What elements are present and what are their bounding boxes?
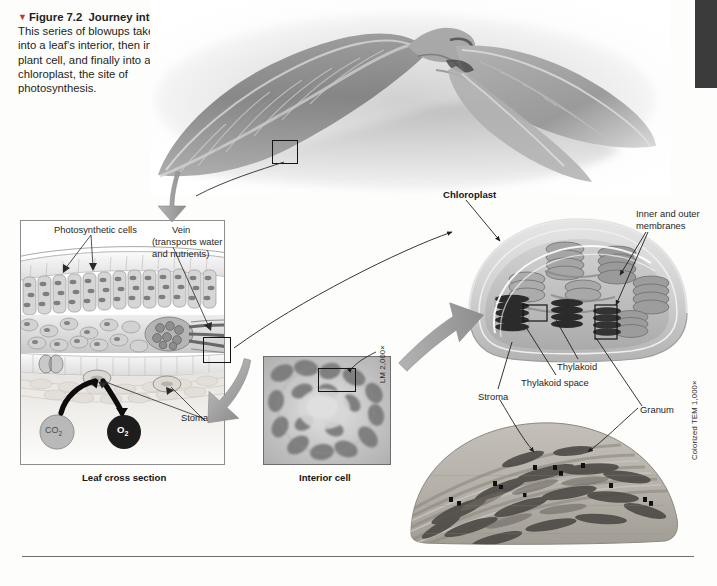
- panel-title-interior-cell: Interior cell: [299, 472, 351, 483]
- label-inner-outer-membranes-2: membranes: [636, 220, 686, 231]
- label-inner-outer-membranes-1: Inner and outer: [636, 208, 700, 219]
- leaf-sem-photograph: [150, 0, 670, 195]
- magnification-lm-label: LM 2,000×: [378, 345, 387, 383]
- label-chloroplast: Chloroplast: [443, 189, 496, 200]
- label-co2: CO2: [45, 425, 62, 439]
- figure-number: Figure 7.2: [29, 11, 82, 23]
- label-stroma: Stroma: [478, 391, 508, 402]
- label-photosynthetic-cells: Photosynthetic cells: [54, 224, 137, 235]
- chapter-edge-tab: [695, 0, 717, 88]
- label-o2: O2: [117, 424, 128, 439]
- label-thylakoid: Thylakoid: [557, 361, 597, 372]
- panel-title-leaf-cross-section: Leaf cross section: [82, 472, 166, 483]
- magnification-tem-label: Colorized TEM 1,000×: [690, 380, 699, 460]
- label-vein-sub1: (transports water: [152, 236, 222, 247]
- label-thylakoid-space: Thylakoid space: [521, 377, 589, 388]
- leaf-photo-magnify-box: [272, 140, 298, 164]
- label-stomata: Stomata: [181, 412, 216, 423]
- label-vein-sub2: and nutrients): [152, 248, 209, 259]
- chloroplast-tem-micrograph: [405, 415, 685, 545]
- label-vein: Vein: [172, 224, 190, 235]
- page-bottom-rule: [22, 556, 694, 557]
- label-granum: Granum: [640, 404, 674, 415]
- cross-section-magnify-box: [203, 337, 231, 363]
- figure-page: ▼Figure 7.2 Journey into a leaf. This se…: [0, 0, 717, 586]
- caption-triangle-icon: ▼: [18, 13, 27, 22]
- interior-cell-magnify-box: [318, 368, 356, 392]
